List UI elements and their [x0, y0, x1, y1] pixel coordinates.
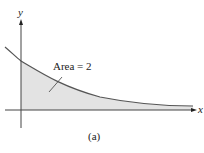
figure: y x Area = 2 (a) — [0, 0, 204, 153]
y-axis-label: y — [17, 6, 23, 18]
x-axis-arrow-icon — [191, 108, 197, 112]
area-label: Area = 2 — [53, 60, 92, 72]
y-axis-arrow-icon — [19, 19, 23, 25]
shaded-area — [21, 61, 193, 110]
x-axis-label: x — [197, 103, 203, 115]
caption: (a) — [88, 130, 101, 143]
